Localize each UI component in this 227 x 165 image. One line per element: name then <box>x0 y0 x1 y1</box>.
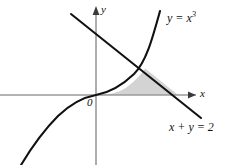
figure-canvas <box>0 0 227 165</box>
curve-label-cubic: y = x3 <box>167 10 196 24</box>
y-axis-arrowhead <box>93 6 100 15</box>
x-axis-arrowhead <box>188 92 196 99</box>
origin-label: 0 <box>87 97 93 108</box>
x-axis-label: x <box>200 88 205 99</box>
math-figure: y = x3 x + y = 2 x y 0 <box>0 0 227 165</box>
curve-label-line: x + y = 2 <box>169 121 214 133</box>
cubic-label-base: y = x <box>167 11 192 25</box>
cubic-label-exponent: 3 <box>192 9 196 19</box>
y-axis-label: y <box>101 4 106 15</box>
